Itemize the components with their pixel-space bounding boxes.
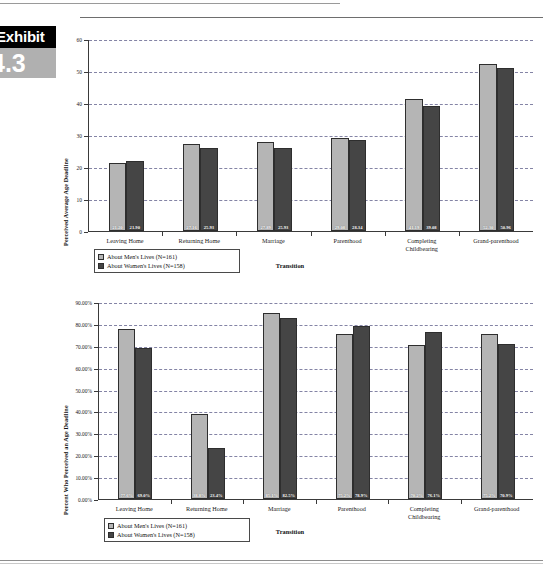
y-axis-tick-label: 30.00%: [75, 431, 92, 437]
bar-women: [208, 448, 225, 499]
bar-value-label: 76.1%: [425, 493, 442, 498]
bottom-rule-secondary: [0, 563, 543, 564]
y-axis-tick-label: 10: [77, 197, 82, 203]
chart-percent-who-perceived-an-age-deadline: Percent Who Perceived an Age Deadline 77…: [0, 293, 543, 558]
x-axis-category-label: Grand-parenthood: [450, 237, 542, 245]
bar-men: [331, 138, 348, 231]
bar-women: [353, 326, 370, 499]
bar-men: [405, 99, 422, 231]
bar-women: [280, 318, 297, 499]
bar-value-label: 41.19: [405, 225, 422, 230]
chart-0-y-axis-title: Perceived Average Age Deadline: [62, 158, 69, 246]
bar-value-label: 28.34: [349, 225, 366, 230]
legend-swatch-women-icon: [108, 532, 114, 538]
y-axis-tick-label: 40.00%: [75, 409, 92, 415]
legend-row-men: About Men's Lives (N=161): [108, 521, 245, 530]
bar-men: [408, 345, 425, 499]
legend-row-men: About Men's Lives (N=161): [98, 252, 235, 261]
bar-value-label: 69.0%: [135, 493, 152, 498]
bar-men: [257, 142, 274, 231]
bar-men: [263, 313, 280, 499]
bar-women: [126, 161, 143, 231]
gridline: [89, 136, 533, 137]
x-axis-tick-mark: [243, 500, 244, 504]
y-axis-tick-mark: [94, 456, 98, 457]
y-axis-tick-mark: [94, 500, 98, 501]
bar-value-label: 21.90: [126, 225, 143, 230]
y-axis-tick-label: 60.00%: [75, 366, 92, 372]
y-axis-tick-label: 10.00%: [75, 475, 92, 481]
y-axis-tick-label: 0.00%: [78, 497, 92, 503]
legend-row-women: About Women's Lives (N=158): [98, 261, 235, 270]
bar-women: [497, 68, 514, 231]
bar-women: [349, 140, 366, 231]
y-axis-tick-mark: [84, 136, 88, 137]
legend-label-men: About Men's Lives (N=161): [107, 253, 177, 261]
bar-men: [118, 329, 135, 499]
y-axis-tick-label: 50: [77, 69, 82, 75]
y-axis-tick-label: 80.00%: [75, 322, 92, 328]
bar-value-label: 27.16: [183, 225, 200, 230]
y-axis-tick-mark: [94, 369, 98, 370]
chart-0-plot-area: 21.2021.9027.1625.9327.8925.9329.0828.34…: [88, 40, 533, 232]
bar-value-label: 75.2%: [481, 493, 498, 498]
legend-swatch-men-icon: [108, 523, 114, 529]
y-axis-tick-label: 20: [77, 165, 82, 171]
y-axis-tick-mark: [84, 104, 88, 105]
bar-value-label: 77.6%: [118, 493, 135, 498]
gridline: [99, 456, 533, 457]
bar-women: [423, 106, 440, 231]
gridline: [89, 168, 533, 169]
y-axis-tick-label: 30: [77, 133, 82, 139]
legend-label-women: About Women's Lives (N=158): [117, 531, 195, 539]
y-axis-tick-mark: [94, 303, 98, 304]
legend-row-women: About Women's Lives (N=158): [108, 530, 245, 539]
bar-men: [183, 144, 200, 231]
bar-men: [481, 334, 498, 499]
gridline: [99, 347, 533, 348]
gridline: [89, 200, 533, 201]
x-axis-tick-mark: [459, 232, 460, 236]
bar-value-label: 39.08: [423, 225, 440, 230]
y-axis-tick-mark: [94, 434, 98, 435]
bottom-rule: [0, 560, 543, 561]
x-axis-tick-mark: [162, 232, 163, 236]
y-axis-tick-mark: [84, 232, 88, 233]
bar-men: [191, 414, 208, 499]
chart-0-x-axis-title: Transition: [245, 262, 335, 269]
x-axis-tick-mark: [316, 500, 317, 504]
y-axis-tick-mark: [94, 391, 98, 392]
y-axis-tick-label: 20.00%: [75, 453, 92, 459]
gridline: [89, 40, 533, 41]
bar-value-label: 21.20: [109, 225, 126, 230]
y-axis-tick-label: 70.00%: [75, 344, 92, 350]
x-axis-tick-mark: [461, 500, 462, 504]
legend-swatch-women-icon: [98, 263, 104, 269]
gridline: [99, 303, 533, 304]
y-axis-tick-mark: [84, 72, 88, 73]
bar-women: [425, 332, 442, 499]
bar-value-label: 29.08: [331, 225, 348, 230]
bar-women: [274, 148, 291, 231]
top-rule: [0, 3, 340, 4]
bar-value-label: 85.1%: [263, 493, 280, 498]
x-axis-tick-mark: [385, 232, 386, 236]
gridline: [89, 72, 533, 73]
y-axis-tick-mark: [84, 168, 88, 169]
gridline: [99, 391, 533, 392]
bar-value-label: 25.93: [274, 225, 291, 230]
chart-perceived-average-age-deadline: Perceived Average Age Deadline 21.2021.9…: [0, 26, 543, 281]
y-axis-tick-label: 0: [79, 229, 82, 235]
legend-label-women: About Women's Lives (N=158): [107, 262, 185, 270]
y-axis-tick-label: 60: [77, 37, 82, 43]
chart-1-x-axis-title: Transition: [245, 528, 335, 535]
y-axis-tick-label: 40: [77, 101, 82, 107]
x-axis-tick-mark: [236, 232, 237, 236]
bar-women: [200, 148, 217, 231]
y-axis-tick-mark: [84, 200, 88, 201]
legend-swatch-men-icon: [98, 254, 104, 260]
bar-value-label: 82.5%: [280, 493, 297, 498]
bar-value-label: 23.4%: [208, 493, 225, 498]
y-axis-tick-mark: [84, 40, 88, 41]
x-axis-tick-mark: [311, 232, 312, 236]
